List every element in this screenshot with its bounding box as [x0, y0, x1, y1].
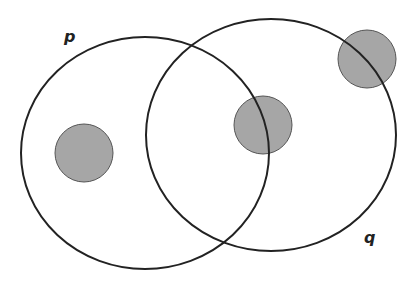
- point-on-q-boundary-circle: [338, 30, 396, 88]
- set-q-label: q: [364, 228, 375, 247]
- venn-diagram: pq: [0, 0, 414, 285]
- set-p-label: p: [63, 27, 75, 46]
- point-in-p-only-circle: [55, 124, 113, 182]
- point-on-p-boundary-in-q-circle: [234, 96, 292, 154]
- diagram-svg: pq: [0, 0, 414, 285]
